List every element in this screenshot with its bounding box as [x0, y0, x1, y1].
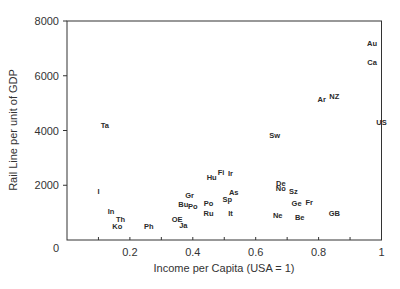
point-label: Ko — [112, 222, 122, 231]
point-label: NZ — [329, 92, 339, 101]
y-tick-label: 4000 — [35, 125, 59, 137]
point-label: Sz — [289, 187, 298, 196]
point-label: Ge — [292, 199, 302, 208]
point-label: No — [276, 184, 286, 193]
point-label: US — [376, 118, 386, 127]
x-tick-label: 0.6 — [248, 246, 263, 258]
y-tick-label: 6000 — [35, 70, 59, 82]
point-label: Ta — [101, 121, 110, 130]
point-label: Gr — [185, 191, 194, 200]
point-label: I — [97, 187, 99, 196]
y-tick-label: 8000 — [35, 15, 59, 27]
point-label: Ne — [273, 211, 283, 220]
point-label: Ru — [204, 209, 214, 218]
x-tick-label: 0.4 — [185, 246, 200, 258]
point-label: In — [108, 207, 115, 216]
y-tick-label: 0 — [53, 242, 59, 254]
point-label: Sw — [269, 131, 280, 140]
point-label: Sp — [223, 195, 233, 204]
y-axis-ticks: 02000400060008000 — [35, 15, 67, 254]
point-label: Fi — [218, 168, 225, 177]
point-label: Ja — [179, 221, 188, 230]
x-tick-label: 1 — [378, 246, 384, 258]
point-label: Po — [204, 199, 214, 208]
point-label: Ir — [228, 169, 233, 178]
point-label: GB — [329, 209, 341, 218]
point-label: Fr — [305, 198, 313, 207]
scatter-chart: 02000400060008000 0.20.40.60.81 AuCaArNZ… — [0, 0, 400, 289]
point-label: Au — [367, 39, 377, 48]
y-axis-label: Rail Line per unit of GDP — [7, 69, 19, 191]
point-label: Ph — [144, 222, 154, 231]
point-label: Ca — [367, 58, 377, 67]
x-tick-label: 0.8 — [311, 246, 326, 258]
point-label: Be — [295, 213, 305, 222]
x-tick-label: 0.2 — [122, 246, 137, 258]
data-points: AuCaArNZUSSwTaIInThKoPhOEJaBuPoGrHuFiIrP… — [97, 39, 386, 231]
x-axis-label: Income per Capita (USA = 1) — [154, 262, 295, 274]
point-label: Ar — [318, 95, 326, 104]
point-label: It — [228, 209, 233, 218]
y-tick-label: 2000 — [35, 179, 59, 191]
point-label: Hu — [207, 173, 217, 182]
point-label: Po — [188, 202, 198, 211]
